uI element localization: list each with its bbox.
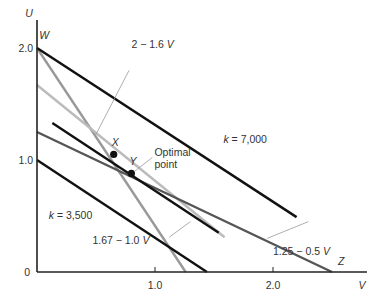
- y-axis-label: U: [25, 7, 33, 19]
- point-label-x: X: [111, 136, 120, 148]
- x-tick-label: 2.0: [266, 279, 281, 291]
- points: XYOptimalpoint: [110, 136, 190, 177]
- chart: U V 0 1.02.01.02.0 2 − 1.6 V1.67 − 1.0 V…: [0, 0, 384, 304]
- annotation-leader: [134, 157, 152, 171]
- label-k-3-500: k = 3,500: [49, 209, 93, 221]
- annotation-text: Optimal: [154, 146, 190, 158]
- origin-label: 0: [24, 266, 30, 278]
- label-1-67-1-0-v: 1.67 − 1.0 V: [92, 234, 150, 246]
- series-lines: [37, 48, 332, 272]
- y-tick-label: 2.0: [18, 42, 33, 54]
- x-axis-label: V: [358, 279, 366, 291]
- leader-2-1-6-v: [96, 70, 129, 134]
- label-2-1-6-v: 2 − 1.6 V: [131, 38, 174, 50]
- vertex-label-w: W: [39, 29, 50, 41]
- label-k-7-000: k = 7,000: [223, 133, 267, 145]
- leader-1-25-0-5-v: [267, 222, 308, 239]
- x-tick-label: 1.0: [148, 279, 163, 291]
- point-label-y: Y: [129, 155, 137, 167]
- leader-1-67-1-0-v: [169, 222, 190, 238]
- y-tick-label: 1.0: [18, 154, 33, 166]
- annotation-text: point: [154, 158, 177, 170]
- label-1-25-0-5-v: 1.25 − 0.5 V: [273, 245, 331, 257]
- point-y: [128, 170, 135, 177]
- vertex-label-z: Z: [337, 255, 345, 267]
- point-x: [110, 151, 117, 158]
